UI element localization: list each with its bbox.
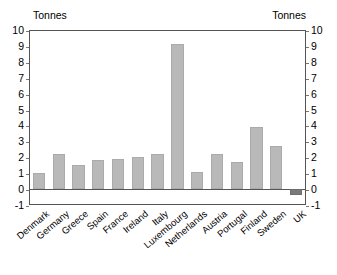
y-axis-tick-label-left: 3 [18,136,24,147]
y-axis-tick-label-left: 5 [18,105,24,116]
y-tick-right [306,142,309,143]
y-axis-tick-label-right: 0 [311,184,317,195]
y-tick-right [306,126,309,127]
bar [270,146,282,189]
y-axis-tick-label-left: 7 [18,73,24,84]
bar [191,172,203,190]
y-tick-right [306,158,309,159]
y-tick-right [306,95,309,96]
axis-unit-label-left: Tonnes [33,9,67,21]
y-axis-tick-label-left: 6 [18,89,24,100]
y-tick-right [306,79,309,80]
y-tick-right [306,47,309,48]
y-axis-tick-label-right: 7 [311,73,317,84]
y-axis-tick-label-right: -1 [311,200,320,211]
y-axis-tick-label-left: 8 [18,57,24,68]
bar-chart: Tonnes Tonnes DenmarkGermanyGreeceSpainF… [0,0,337,275]
bar [151,154,163,189]
y-axis-tick-label-right: 8 [311,57,317,68]
bars-layer [29,30,306,205]
y-tick-right [306,111,309,112]
y-axis-tick-label-right: 9 [311,41,317,52]
bar [33,173,45,189]
y-axis-tick-label-right: 3 [311,136,317,147]
bar [53,154,65,189]
y-axis-tick-label-left: 2 [18,152,24,163]
axis-unit-label-right: Tonnes [272,9,306,21]
bar [171,44,183,189]
y-axis-tick-label-right: 4 [311,120,317,131]
y-axis-tick-label-left: 10 [12,25,24,36]
y-axis-tick-label-right: 5 [311,105,317,116]
bar [250,127,262,189]
chart-footnote-clipped [0,267,337,275]
bar [112,159,124,189]
category-axis-labels: DenmarkGermanyGreeceSpainFranceIrelandIt… [29,206,306,266]
y-tick-right [306,174,309,175]
y-tick-right [306,31,309,32]
y-axis-tick-label-left: 0 [18,184,24,195]
y-axis-tick-label-right: 6 [311,89,317,100]
y-axis-tick-label-left: 4 [18,120,24,131]
y-tick-right [306,63,309,64]
bar [132,157,144,189]
y-axis-tick-label-right: 1 [311,168,317,179]
chart-title-clipped [0,0,337,9]
y-axis-tick-label-right: 2 [311,152,317,163]
y-axis-tick-label-left: 1 [18,168,24,179]
y-axis-tick-label-left: -1 [15,200,24,211]
y-axis-tick-label-left: 9 [18,41,24,52]
y-axis-tick-label-right: 10 [311,25,323,36]
